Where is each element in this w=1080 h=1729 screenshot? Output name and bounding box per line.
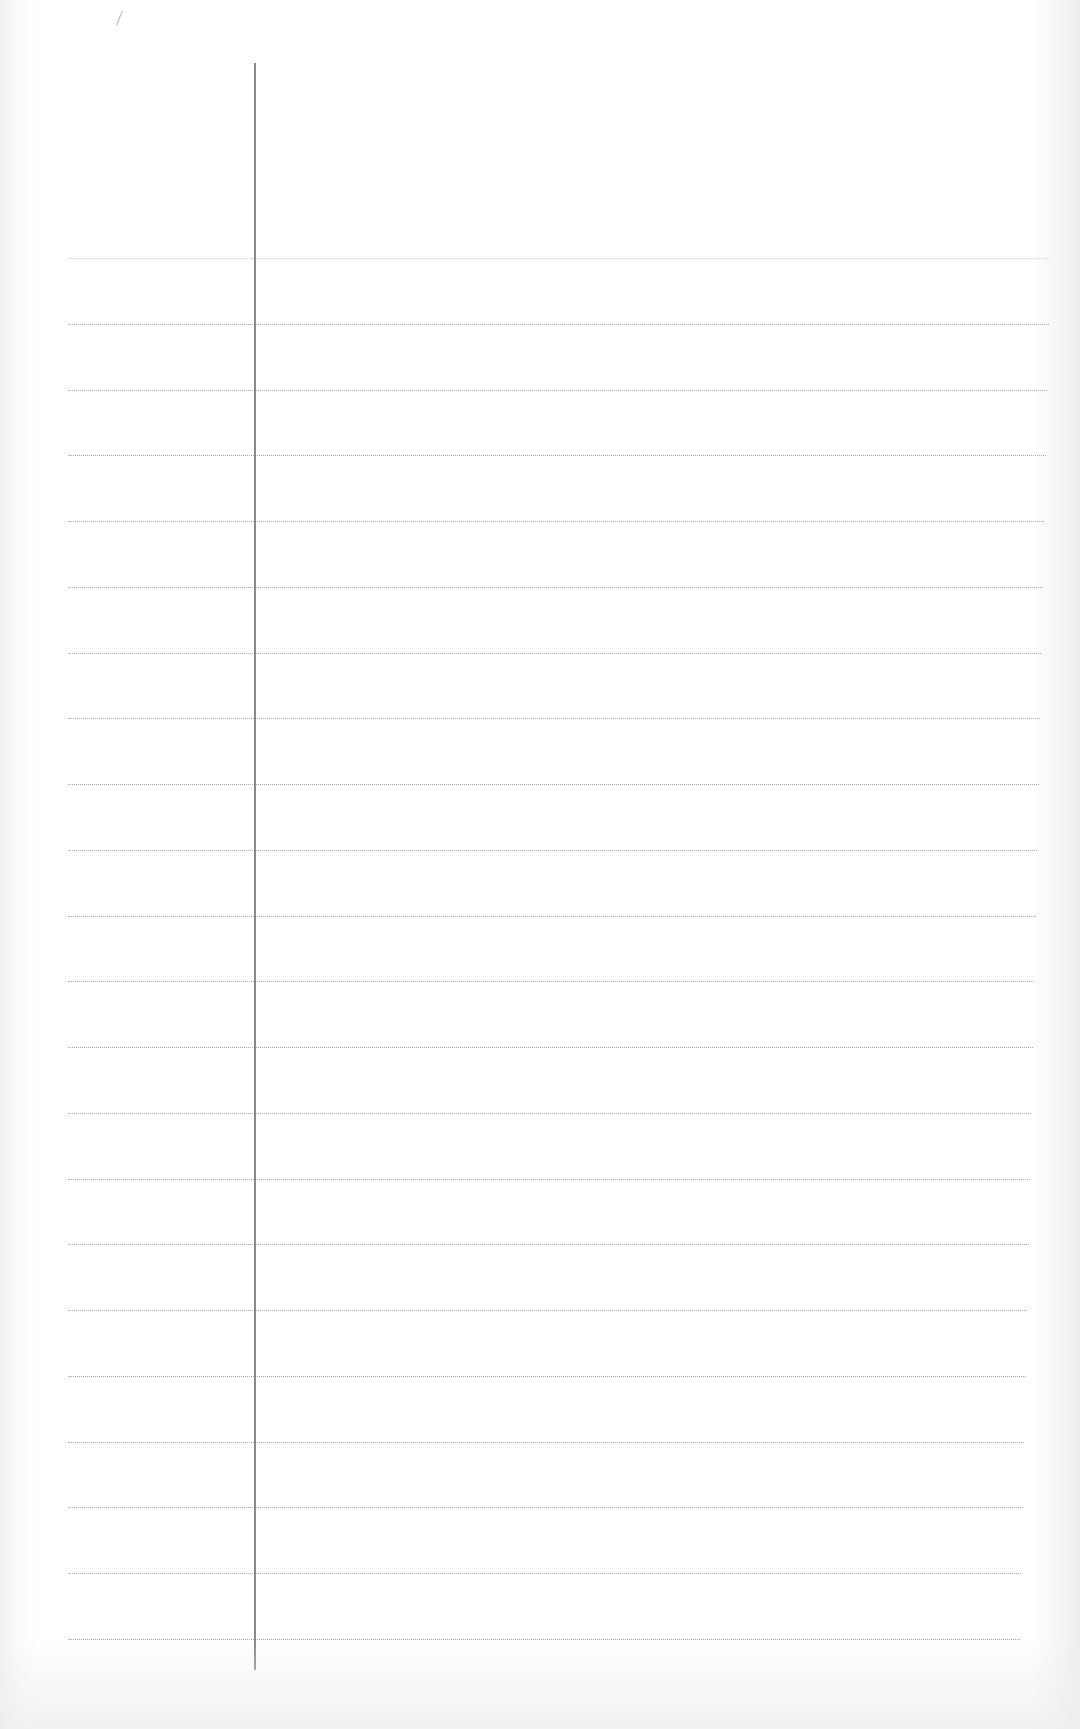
ruled-line: [68, 718, 1040, 719]
margin-line: [254, 63, 256, 1670]
ruled-line: [68, 1113, 1031, 1114]
ruled-line: [68, 916, 1036, 917]
ruled-line: [68, 258, 1050, 259]
ruled-line: [68, 455, 1046, 456]
ruled-line: [68, 1047, 1033, 1048]
ruled-line: [68, 653, 1041, 654]
scan-scratch-mark: [116, 10, 123, 25]
ruled-line: [68, 1442, 1024, 1443]
ruled-line: [68, 324, 1049, 325]
ruled-line: [68, 1573, 1021, 1574]
ruled-line: [68, 1179, 1030, 1180]
ruled-line: [68, 1507, 1023, 1508]
ruled-line: [68, 784, 1039, 785]
ruled-line: [68, 1310, 1027, 1311]
ruled-line: [68, 1244, 1029, 1245]
ruled-line: [68, 850, 1037, 851]
ruled-line: [68, 981, 1034, 982]
ruled-line: [68, 587, 1043, 588]
lined-paper-sheet: [0, 0, 1080, 1729]
ruled-line: [68, 1639, 1020, 1640]
ruled-line: [68, 1376, 1026, 1377]
ruled-line: [68, 390, 1047, 391]
ruled-line: [68, 521, 1044, 522]
